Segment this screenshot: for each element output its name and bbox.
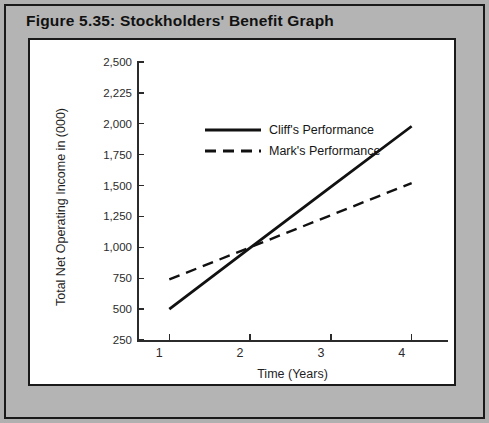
plot-area: 2505007501,0001,2501,5001,7502,0002,2252… xyxy=(30,40,458,388)
solid-line-icon xyxy=(205,124,261,136)
legend-label: Cliff's Performance xyxy=(269,123,374,137)
figure-title: Figure 5.35: Stockholders' Benefit Graph xyxy=(26,12,334,30)
series-line-2 xyxy=(169,183,411,279)
series-lines xyxy=(30,40,458,388)
legend-item: Cliff's Performance xyxy=(205,122,380,138)
chart-panel: 2505007501,0001,2501,5001,7502,0002,2252… xyxy=(28,38,456,386)
chart-legend: Cliff's PerformanceMark's Performance xyxy=(205,122,380,164)
legend-label: Mark's Performance xyxy=(269,144,380,158)
dashed-line-icon xyxy=(205,145,261,157)
legend-item: Mark's Performance xyxy=(205,143,380,159)
figure-container: Figure 5.35: Stockholders' Benefit Graph… xyxy=(0,0,489,423)
